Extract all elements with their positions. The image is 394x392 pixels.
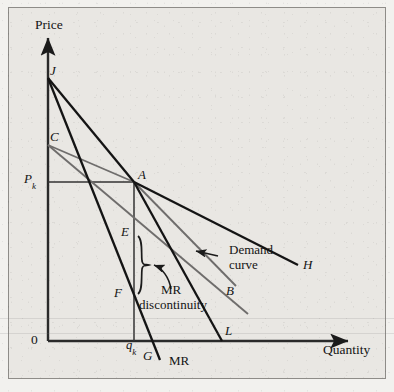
- kinked-demand-plot: [0, 0, 394, 392]
- origin-label: 0: [31, 333, 38, 347]
- point-label-E: E: [121, 225, 129, 239]
- mr-discontinuity-brace: [138, 236, 149, 294]
- mr-steep-segment: [48, 78, 160, 360]
- line-C-to-A: [48, 145, 134, 182]
- mr-flat-segment: [48, 145, 248, 314]
- quantity-tick-subscript: k: [132, 347, 136, 357]
- mr-discontinuity-annotation-line2: discontinuity: [139, 298, 207, 312]
- point-label-F: F: [114, 286, 122, 300]
- y-axis-label: Price: [35, 18, 63, 32]
- x-axis-label: Quantity: [323, 343, 370, 357]
- point-label-G: G: [143, 349, 152, 363]
- quantity-axis-tick-label: qk: [126, 339, 136, 355]
- demand-curve-annotation-line1: Demand: [229, 243, 273, 257]
- point-label-B: B: [226, 284, 234, 298]
- price-tick-subscript: k: [32, 181, 36, 191]
- demand-curve-annotation-line2: curve: [229, 258, 258, 272]
- point-label-C: C: [50, 130, 59, 144]
- point-label-L: L: [225, 324, 232, 338]
- point-label-J: J: [50, 64, 56, 78]
- demand-upper-segment: [48, 78, 134, 182]
- black-curve-lines: [48, 78, 298, 360]
- mr-curve-label: MR: [169, 354, 189, 368]
- point-label-A: A: [138, 168, 146, 182]
- price-tick-base: P: [24, 171, 32, 186]
- price-axis-tick-label: Pk: [24, 172, 36, 189]
- point-label-H: H: [303, 258, 312, 272]
- figure-page: Price Quantity 0 Pk qk J C A E F G B H L…: [0, 0, 394, 392]
- demand-extension-to-H: [134, 182, 298, 265]
- demand-lower-segment: [134, 182, 222, 341]
- line-A-to-B: [134, 182, 236, 286]
- mr-discontinuity-annotation-line1: MR: [161, 283, 181, 297]
- gray-construction-lines: [48, 145, 248, 314]
